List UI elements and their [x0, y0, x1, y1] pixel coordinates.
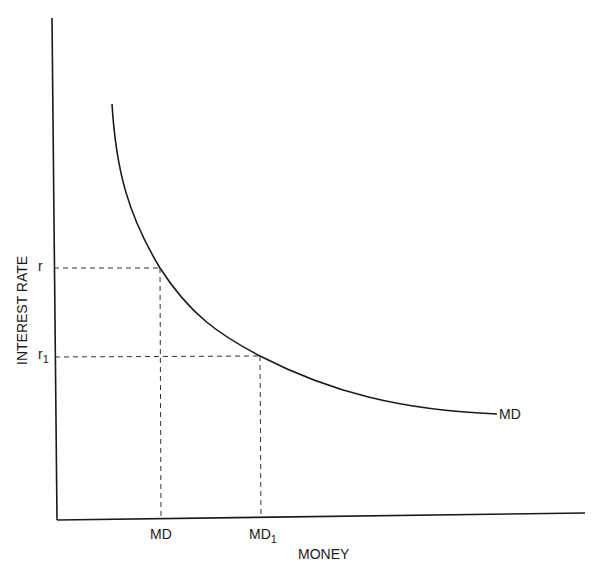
tick-r1-subscript: 1: [43, 353, 49, 365]
tick-label-md: MD: [150, 527, 172, 541]
tick-md1-subscript: 1: [271, 533, 277, 545]
tick-md1-text: MD: [249, 526, 271, 542]
x-axis-label: MONEY: [298, 547, 349, 561]
tick-md-text: MD: [150, 526, 172, 542]
x-axis: [57, 513, 585, 520]
tick-r-text: r: [38, 258, 43, 274]
dashed-guide-r1-horizontal: [55, 356, 260, 357]
tick-label-md1: MD1: [249, 527, 277, 545]
dashed-guide-md1-vertical: [260, 356, 261, 516]
tick-label-r1: r1: [38, 347, 49, 365]
curve-label-md: MD: [499, 407, 521, 421]
tick-label-r: r: [38, 259, 43, 273]
money-demand-diagram: [0, 0, 597, 577]
y-axis-label: INTEREST RATE: [14, 256, 30, 365]
dashed-guide-md-vertical: [160, 268, 161, 518]
money-demand-curve: [112, 104, 497, 414]
y-axis: [52, 18, 57, 520]
